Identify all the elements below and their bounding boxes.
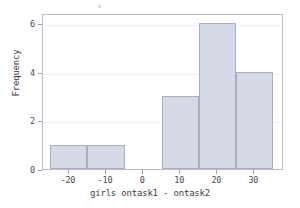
plot-area	[42, 14, 283, 170]
histogram-bar	[236, 72, 273, 170]
gridline	[43, 25, 282, 26]
x-axis-title: girls ontask1 - ontask2	[0, 188, 300, 198]
histogram-bar	[162, 96, 199, 169]
histogram-bar	[199, 23, 236, 169]
scan-artifact-speck	[98, 5, 101, 8]
y-axis-title: Frequency	[11, 28, 21, 118]
x-tick-mark	[253, 170, 254, 174]
x-tick-mark	[105, 170, 106, 174]
histogram-bar	[50, 145, 87, 169]
x-tick-mark	[142, 170, 143, 174]
x-tick-mark	[68, 170, 69, 174]
x-tick-label: 10	[164, 175, 194, 185]
y-tick-label: 2	[23, 116, 35, 126]
x-tick-label: 0	[127, 175, 157, 185]
x-tick-label: -10	[90, 175, 120, 185]
y-tick-label: 4	[23, 68, 35, 78]
histogram-bar	[87, 145, 124, 169]
y-tick-label: 6	[23, 19, 35, 29]
y-tick-mark	[38, 170, 42, 171]
x-tick-label: 30	[238, 175, 268, 185]
y-tick-mark	[38, 73, 42, 74]
x-tick-label: -20	[53, 175, 83, 185]
x-tick-mark	[179, 170, 180, 174]
y-tick-mark	[38, 24, 42, 25]
x-tick-mark	[216, 170, 217, 174]
y-tick-mark	[38, 121, 42, 122]
y-tick-label: 0	[23, 165, 35, 175]
histogram-figure: -20-100102030 0246 girls ontask1 - ontas…	[0, 0, 300, 208]
x-tick-label: 20	[201, 175, 231, 185]
